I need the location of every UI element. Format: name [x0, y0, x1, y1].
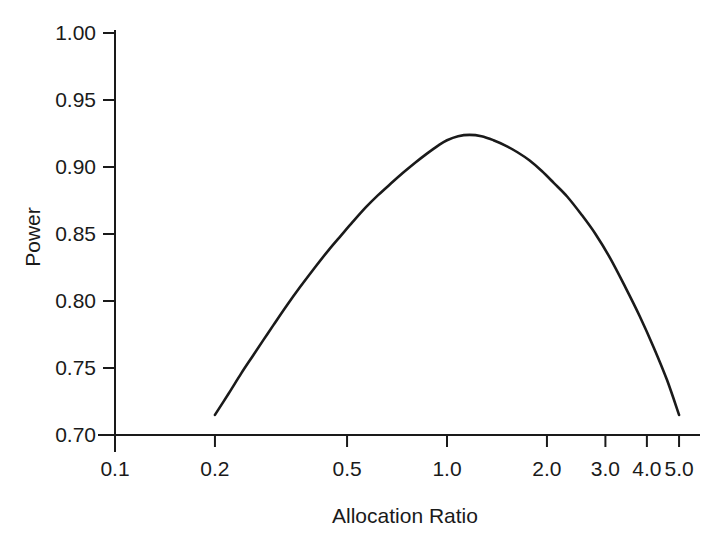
x-tick-label: 5.0: [664, 457, 693, 480]
x-tick-label: 3.0: [591, 457, 620, 480]
axis-lines: [98, 30, 700, 452]
y-tick-label: 0.75: [55, 356, 96, 379]
chart-canvas: 0.700.750.800.850.900.951.00 0.10.20.51.…: [0, 0, 719, 554]
y-tick-label: 0.95: [55, 88, 96, 111]
x-tick-label: 1.0: [432, 457, 461, 480]
y-tick-label: 0.80: [55, 289, 96, 312]
power-curve: [215, 135, 679, 415]
y-tick-label: 0.90: [55, 155, 96, 178]
y-axis-ticks: 0.700.750.800.850.900.951.00: [55, 21, 115, 446]
x-tick-label: 0.1: [100, 457, 129, 480]
x-tick-label: 0.5: [332, 457, 361, 480]
y-tick-label: 0.70: [55, 423, 96, 446]
x-tick-label: 2.0: [532, 457, 561, 480]
y-axis-title: Power: [21, 207, 44, 267]
x-tick-label: 4.0: [632, 457, 661, 480]
power-vs-allocation-ratio-figure: 0.700.750.800.850.900.951.00 0.10.20.51.…: [0, 0, 719, 554]
y-tick-label: 1.00: [55, 21, 96, 44]
x-axis-title: Allocation Ratio: [332, 504, 478, 527]
x-axis-ticks: 0.10.20.51.02.03.04.05.0: [100, 435, 693, 480]
x-tick-label: 0.2: [200, 457, 229, 480]
y-tick-label: 0.85: [55, 222, 96, 245]
